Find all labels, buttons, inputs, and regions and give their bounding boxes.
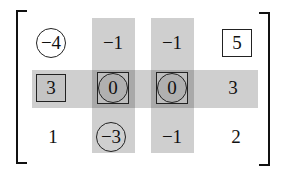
cell-value: −1: [162, 126, 182, 148]
cell-r2-c4: 3: [213, 71, 253, 105]
right-bracket: [259, 12, 270, 166]
cell-r2-c2: 0: [93, 71, 133, 105]
left-bracket: [16, 10, 27, 164]
cell-value: 0: [108, 77, 118, 99]
cell-value: 1: [48, 126, 58, 148]
cell-value: 3: [46, 77, 56, 99]
cell-value: −4: [41, 32, 61, 54]
cell-value: −3: [101, 126, 121, 148]
cell-r1-c4: 5: [217, 26, 257, 60]
cell-r1-c1: −4: [31, 26, 71, 60]
cell-value: 5: [232, 32, 242, 54]
cell-value: −1: [162, 32, 182, 54]
cell-r2-c1: 3: [31, 71, 71, 105]
cell-value: 0: [167, 77, 177, 99]
cell-value: 2: [231, 126, 241, 148]
cell-r3-c1: 1: [33, 120, 73, 154]
cell-r1-c2: −1: [93, 26, 133, 60]
cell-r1-c3: −1: [152, 26, 192, 60]
cell-value: −1: [103, 32, 123, 54]
cell-r3-c2: −3: [91, 120, 131, 154]
cell-r3-c4: 2: [216, 120, 256, 154]
cell-r3-c3: −1: [152, 120, 192, 154]
cell-value: 3: [228, 77, 238, 99]
cell-r2-c3: 0: [152, 71, 192, 105]
